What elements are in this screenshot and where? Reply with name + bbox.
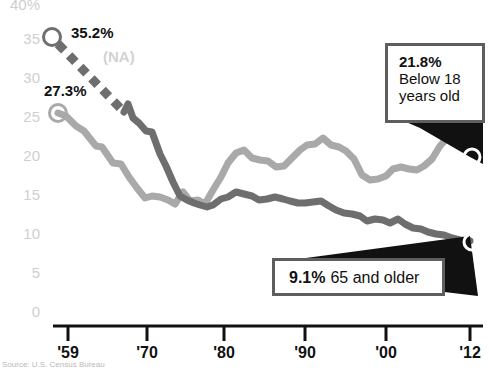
label-start-below-18: 35.2% — [71, 24, 114, 41]
start-marker-below-18 — [44, 29, 61, 46]
x-axis-tick-70: '70 — [122, 344, 172, 362]
x-axis-tick-00: '00 — [361, 344, 411, 362]
x-axis-tick-90: '90 — [280, 344, 330, 362]
callout-senior-label: 65 and older — [325, 269, 419, 286]
callout-youth-line2: Below 18 — [399, 70, 482, 87]
series-line-65-and-older — [58, 113, 470, 204]
x-axis-tick-80: '80 — [199, 344, 249, 362]
callout-youth-value: 21.8% — [399, 53, 482, 70]
callout-65-and-older: 9.1%65 and older — [272, 258, 445, 296]
x-axis — [53, 326, 483, 341]
x-axis-tick-12: '12 — [445, 344, 489, 362]
callout-youth-line3: years old — [399, 87, 482, 104]
label-start-65-and-older: 27.3% — [44, 82, 87, 99]
callout-senior-text: 9.1%65 and older — [289, 269, 419, 286]
callout-below-18: 21.8% Below 18 years old — [385, 43, 485, 123]
label-na: (NA) — [103, 48, 135, 65]
callout-senior-value: 9.1% — [289, 269, 325, 286]
source-note: Source: U.S. Census Bureau — [2, 360, 105, 369]
